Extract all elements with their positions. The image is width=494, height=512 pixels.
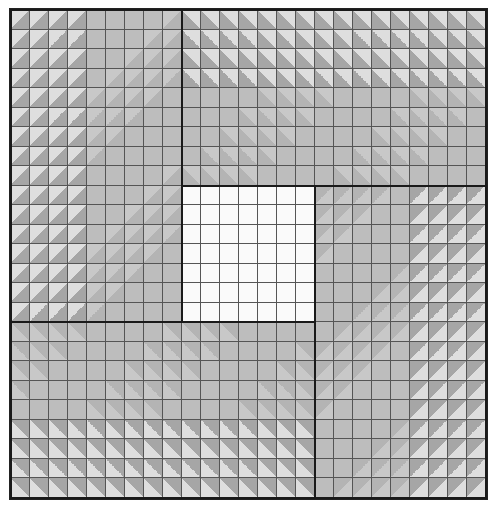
grid-cell	[258, 400, 277, 420]
grid-cell	[334, 303, 353, 323]
grid-cell	[448, 186, 467, 206]
grid-cell	[30, 400, 49, 420]
grid-cell	[277, 303, 296, 323]
grid-cell	[391, 127, 410, 147]
grid-cell	[87, 10, 106, 30]
grid-cell	[258, 10, 277, 30]
grid-cell	[87, 225, 106, 245]
grid-cell	[106, 303, 125, 323]
grid-cell	[467, 127, 486, 147]
grid-cell	[277, 283, 296, 303]
grid-cell	[372, 30, 391, 50]
grid-cell	[87, 439, 106, 459]
grid-cell	[125, 30, 144, 50]
grid-cell	[201, 69, 220, 89]
grid-cell	[372, 264, 391, 284]
grid-cell	[410, 381, 429, 401]
grid-cell	[277, 186, 296, 206]
grid-cell	[296, 439, 315, 459]
grid-cell	[163, 225, 182, 245]
grid-cell	[391, 439, 410, 459]
grid-cell	[144, 225, 163, 245]
grid-cell	[448, 166, 467, 186]
grid-cell	[334, 10, 353, 30]
grid-cell	[87, 166, 106, 186]
grid-cell	[106, 225, 125, 245]
grid-cell	[334, 478, 353, 498]
grid-cell	[125, 283, 144, 303]
grid-cell	[410, 127, 429, 147]
grid-cell	[144, 147, 163, 167]
grid-cell	[372, 381, 391, 401]
grid-cell	[87, 400, 106, 420]
grid-cell	[201, 186, 220, 206]
grid-cell	[87, 186, 106, 206]
grid-cell	[49, 439, 68, 459]
grid-cell	[277, 127, 296, 147]
grid-cell	[68, 420, 87, 440]
grid-cell	[49, 49, 68, 69]
grid-cell	[410, 225, 429, 245]
grid-cell	[410, 439, 429, 459]
grid-cell	[410, 420, 429, 440]
grid-cell	[125, 400, 144, 420]
grid-cell	[106, 400, 125, 420]
grid-cell	[201, 283, 220, 303]
grid-cell	[448, 322, 467, 342]
grid-cell	[429, 108, 448, 128]
grid-cell	[11, 283, 30, 303]
grid-cell	[220, 10, 239, 30]
grid-cell	[467, 342, 486, 362]
grid-cell	[410, 459, 429, 479]
grid-cell	[49, 478, 68, 498]
grid-cell	[296, 10, 315, 30]
grid-cell	[182, 303, 201, 323]
grid-cell	[353, 478, 372, 498]
grid-cell	[182, 127, 201, 147]
grid-cell	[467, 322, 486, 342]
grid-cell	[106, 478, 125, 498]
grid-cell	[125, 244, 144, 264]
grid-cell	[144, 283, 163, 303]
grid-cell	[391, 166, 410, 186]
grid-cell	[106, 127, 125, 147]
grid-cell	[11, 459, 30, 479]
grid-cell	[220, 147, 239, 167]
grid-cell	[315, 205, 334, 225]
grid-cell	[258, 69, 277, 89]
grid-cell	[353, 400, 372, 420]
grid-cell	[49, 244, 68, 264]
grid-cell	[239, 30, 258, 50]
grid-cell	[372, 439, 391, 459]
grid-cell	[201, 49, 220, 69]
grid-cell	[296, 49, 315, 69]
grid-cell	[372, 225, 391, 245]
grid-cell	[239, 10, 258, 30]
grid-cell	[353, 49, 372, 69]
grid-cell	[87, 322, 106, 342]
grid-cell	[220, 361, 239, 381]
grid-cell	[372, 478, 391, 498]
grid-cell	[125, 108, 144, 128]
grid-cell	[239, 420, 258, 440]
grid-cell	[429, 88, 448, 108]
grid-cell	[429, 342, 448, 362]
grid-cell	[182, 108, 201, 128]
grid-cell	[68, 400, 87, 420]
grid-cell	[315, 283, 334, 303]
grid-cell	[410, 88, 429, 108]
grid-cell	[49, 381, 68, 401]
grid-cell	[163, 439, 182, 459]
grid-cell	[334, 205, 353, 225]
grid-cell	[30, 88, 49, 108]
grid-cell	[163, 459, 182, 479]
grid-cell	[239, 108, 258, 128]
grid-cell	[296, 283, 315, 303]
grid-cell	[182, 225, 201, 245]
grid-cell	[372, 342, 391, 362]
grid-cell	[448, 49, 467, 69]
grid-cell	[410, 322, 429, 342]
grid-cell	[315, 127, 334, 147]
grid-cell	[410, 342, 429, 362]
grid-cell	[429, 303, 448, 323]
